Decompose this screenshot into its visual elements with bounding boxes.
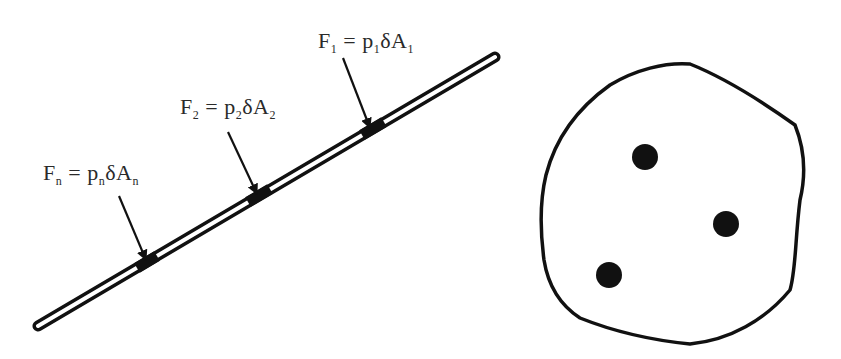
- point-mass: [713, 211, 739, 237]
- region-outline: [541, 64, 804, 344]
- force-label-1: F1 = p1δA1: [318, 28, 414, 57]
- force-label-n: Fn = pnδAn: [43, 160, 139, 189]
- point-masses: [596, 144, 739, 288]
- force-arrow-1: [343, 58, 370, 128]
- label-p: p: [224, 94, 236, 119]
- label-F: F: [180, 94, 193, 119]
- label-sub: 1: [407, 42, 414, 56]
- label-F: F: [43, 160, 56, 185]
- point-mass: [596, 262, 622, 288]
- label-sub: n: [56, 174, 63, 188]
- label-eq: =: [205, 94, 218, 119]
- label-p: p: [87, 160, 99, 185]
- label-dA: δA: [380, 28, 407, 53]
- label-F: F: [318, 28, 331, 53]
- force-arrow-2: [228, 132, 257, 194]
- label-dA: δA: [242, 94, 269, 119]
- label-sub: 1: [331, 42, 338, 56]
- label-sub: 2: [269, 108, 276, 122]
- label-dA: δA: [105, 160, 132, 185]
- point-mass: [632, 144, 658, 170]
- label-eq: =: [343, 28, 356, 53]
- label-sub: 2: [193, 108, 200, 122]
- force-arrow-n: [119, 196, 146, 260]
- label-p: p: [362, 28, 374, 53]
- force-label-2: F2 = p2δA2: [180, 94, 276, 123]
- label-eq: =: [68, 160, 81, 185]
- label-sub: n: [132, 174, 139, 188]
